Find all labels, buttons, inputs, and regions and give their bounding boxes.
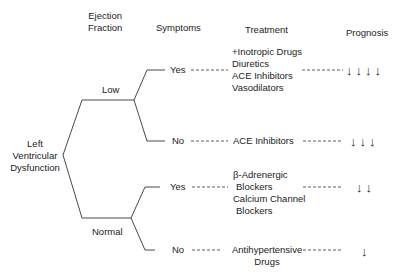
treatment-item: Blockers <box>233 181 305 193</box>
treatment-item: ACE Inhibitors <box>232 70 302 82</box>
root-line1: Left <box>4 138 66 150</box>
ef-low-label: Low <box>102 84 119 96</box>
symptom-low-no: No <box>172 135 184 147</box>
treatment-low-no: ACE Inhibitors <box>233 135 294 147</box>
prognosis-normal-no-arrow-icon: ↓ <box>361 245 371 258</box>
treatment-item: Calcium Channel <box>233 193 305 205</box>
treatment-low-yes: +Inotropic Drugs Diuretics ACE Inhibitor… <box>232 46 302 94</box>
symptom-normal-yes: Yes <box>170 181 186 193</box>
treatment-item: β-Adrenergic <box>233 169 305 181</box>
root-node: Left Ventricular Dysfunction <box>4 138 66 174</box>
symptom-low-yes: Yes <box>170 64 186 76</box>
header-ejection-line2: Fraction <box>88 22 122 34</box>
treatment-item: +Inotropic Drugs <box>232 46 302 58</box>
treatment-normal-no: Antihypertensive Drugs <box>232 244 302 268</box>
treatment-item: Blockers <box>233 205 305 217</box>
prognosis-normal-yes-arrows-icon: ↓↓ <box>356 181 375 194</box>
treatment-item: Vasodilators <box>232 82 302 94</box>
treatment-item: Antihypertensive <box>232 244 302 256</box>
header-treatment: Treatment <box>245 24 288 36</box>
ef-normal-label: Normal <box>92 226 123 238</box>
prognosis-low-no-arrows-icon: ↓↓↓ <box>350 135 379 148</box>
decision-tree-lines <box>0 0 397 274</box>
treatment-item: Drugs <box>232 256 302 268</box>
header-prognosis: Prognosis <box>346 27 388 39</box>
root-line2: Ventricular <box>4 150 66 162</box>
header-symptoms: Symptoms <box>156 22 201 34</box>
symptom-normal-no: No <box>172 244 184 256</box>
header-ejection-fraction: Ejection Fraction <box>88 10 122 34</box>
prognosis-low-yes-arrows-icon: ↓↓↓↓ <box>346 64 384 77</box>
treatment-normal-yes: β-Adrenergic Blockers Calcium Channel Bl… <box>233 169 305 217</box>
treatment-item: Diuretics <box>232 58 302 70</box>
root-line3: Dysfunction <box>4 162 66 174</box>
treatment-item: ACE Inhibitors <box>233 135 294 147</box>
header-ejection-line1: Ejection <box>88 10 122 22</box>
